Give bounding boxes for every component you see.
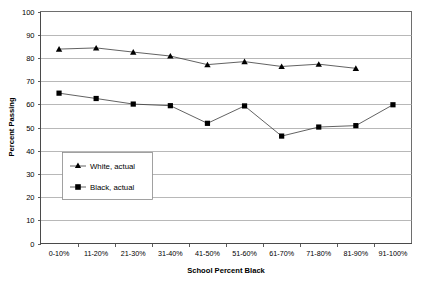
y-tick-label: 30 [26,170,34,179]
x-tick-label: 11-20% [84,249,109,258]
y-tick-label: 40 [26,147,34,156]
square-marker-icon [205,121,210,126]
x-tick-label: 71-80% [306,249,331,258]
x-tick-label: 81-90% [343,249,368,258]
square-marker-icon [316,124,321,129]
square-marker-icon [56,91,61,96]
x-axis-title: School Percent Black [187,266,265,275]
line-chart: 0102030405060708090100 0-10%11-20%21-30%… [0,0,431,285]
square-marker-icon [242,103,247,108]
legend-label-white: White, actual [90,162,135,171]
x-tick-label: 61-70% [269,249,294,258]
x-tick-label: 91-100% [379,249,408,258]
x-tick-label: 41-50% [195,249,220,258]
square-marker-icon [131,101,136,106]
legend-box [63,153,153,200]
y-tick-label: 60 [26,100,34,109]
square-marker-icon [75,184,81,190]
y-tick-label: 10 [26,216,34,225]
y-tick-label: 20 [26,193,34,202]
legend-label-black: Black, actual [90,183,134,192]
y-tick-label: 90 [26,31,34,40]
y-axis-title: Percent Passing [7,97,16,156]
y-tick-label: 70 [26,77,34,86]
y-tick-label: 80 [26,54,34,63]
square-marker-icon [94,96,99,101]
square-marker-icon [390,102,395,107]
y-tick-label: 50 [26,124,34,133]
chart-svg: 0102030405060708090100 0-10%11-20%21-30%… [0,0,431,285]
square-marker-icon [353,123,358,128]
x-tick-label: 0-10% [49,249,70,258]
x-tick-label: 51-60% [232,249,257,258]
y-tick-label: 0 [30,240,34,249]
y-tick-label: 100 [22,8,35,17]
square-marker-icon [168,103,173,108]
chart-legend: White, actual Black, actual [63,153,153,200]
square-marker-icon [279,133,284,138]
x-tick-label: 21-30% [121,249,146,258]
x-tick-label: 31-40% [158,249,183,258]
